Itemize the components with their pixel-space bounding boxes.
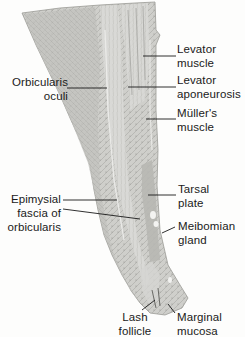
label-levator-muscle: Levator muscle <box>177 42 216 70</box>
label-mullers-muscle: Müller's muscle <box>177 106 217 134</box>
label-marginal-mucosa: Marginal mucosa <box>177 310 222 337</box>
label-epimysial-fascia: Epimysial fascia of orbicularis <box>4 192 61 234</box>
eyelid-histology-figure: Levator muscle Orbicularis oculi Levator… <box>0 0 245 337</box>
label-orbicularis-oculi: Orbicularis oculi <box>8 75 68 103</box>
label-meibomian-gland: Meibomian gland <box>178 219 235 247</box>
leader-meibomian-gland <box>162 227 175 233</box>
label-tarsal-plate: Tarsal plate <box>178 182 209 210</box>
label-lash-follicle: Lash follicle <box>114 310 156 337</box>
label-levator-aponeurosis: Levator aponeurosis <box>177 73 241 101</box>
